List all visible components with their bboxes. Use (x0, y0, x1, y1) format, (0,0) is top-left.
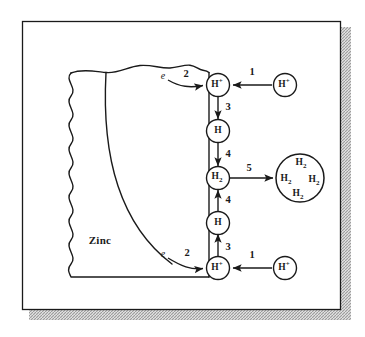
electron-label-bottom: e (161, 249, 165, 259)
bubble-molecule-top: H2 (296, 158, 307, 168)
label-h2-surface: H2 (212, 172, 223, 182)
bubble-molecule-right: H2 (309, 175, 320, 185)
step-5-label: 5 (246, 163, 251, 174)
zinc-label: Zinc (89, 235, 112, 246)
count-subscript: 2 (288, 178, 292, 186)
count-subscript: 2 (300, 193, 304, 201)
bubble-molecule-bottom: H2 (293, 189, 304, 199)
charge-superscript: + (286, 260, 290, 268)
figure-canvas: Zinc e e 1 2 3 4 5 4 3 2 1 H+ H+ H H2 H … (0, 0, 365, 337)
charge-superscript: + (219, 260, 223, 268)
label-h-plus-surface-top: H+ (211, 80, 222, 90)
step-2-top-label: 2 (183, 69, 188, 80)
step-4-top-label: 4 (225, 149, 230, 160)
count-subscript: 2 (303, 162, 307, 170)
count-subscript: 2 (219, 176, 223, 184)
step-1-bottom-label: 1 (249, 250, 254, 261)
step-4-bottom-label: 4 (225, 195, 230, 206)
diagram-svg (0, 0, 365, 337)
label-h-plus-bulk-bottom: H+ (278, 263, 289, 273)
label-h-plus-surface-bottom: H+ (211, 263, 222, 273)
label-h-atom-top: H (214, 126, 221, 136)
step-1-top-label: 1 (249, 67, 254, 78)
charge-superscript: + (219, 77, 223, 85)
step-3-top-label: 3 (225, 102, 230, 113)
bubble-molecule-left: H2 (281, 174, 292, 184)
count-subscript: 2 (316, 179, 320, 187)
label-h-atom-bottom: H (214, 218, 221, 228)
step-2-bottom-label: 2 (184, 248, 189, 259)
electron-label-top: e (161, 71, 165, 81)
step-3-bottom-label: 3 (225, 242, 230, 253)
label-h-plus-bulk-top: H+ (278, 80, 289, 90)
charge-superscript: + (286, 77, 290, 85)
